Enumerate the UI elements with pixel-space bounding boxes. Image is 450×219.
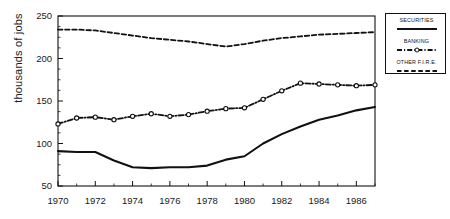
x-tick-label: 1984 bbox=[299, 195, 339, 206]
legend-label: BANKING bbox=[386, 38, 447, 45]
legend-label: OTHER F.I.R.E. bbox=[386, 59, 447, 66]
data-point-marker bbox=[168, 114, 172, 118]
x-tick-label: 1976 bbox=[150, 195, 190, 206]
data-point-marker bbox=[186, 113, 190, 117]
y-tick-label: 200 bbox=[26, 53, 52, 64]
data-point-marker bbox=[205, 109, 209, 113]
x-tick-label: 1974 bbox=[113, 195, 153, 206]
series-securities bbox=[58, 107, 375, 168]
series-other-f-i-r-e bbox=[58, 30, 375, 47]
x-tick-label: 1986 bbox=[336, 195, 376, 206]
legend-item-other-f-i-r-e: OTHER F.I.R.E. bbox=[386, 59, 447, 72]
x-tick-label: 1970 bbox=[38, 195, 78, 206]
data-point-marker bbox=[56, 122, 60, 126]
y-tick-label: 250 bbox=[26, 10, 52, 21]
x-tick-label: 1972 bbox=[75, 195, 115, 206]
chart-legend: SECURITIESBANKINGOTHER F.I.R.E. bbox=[385, 13, 446, 74]
y-tick-label: 150 bbox=[26, 95, 52, 106]
x-tick-label: 1982 bbox=[262, 195, 302, 206]
data-point-marker bbox=[130, 114, 134, 118]
x-tick-label: 1980 bbox=[224, 195, 264, 206]
data-point-marker bbox=[261, 97, 265, 101]
legend-label: SECURITIES bbox=[386, 17, 447, 24]
y-tick-label: 50 bbox=[26, 180, 52, 191]
data-point-marker bbox=[354, 84, 358, 88]
chart-figure: thousands of jobs 50100150200250 1970197… bbox=[0, 0, 450, 219]
plot-canvas bbox=[0, 0, 450, 219]
legend-item-securities: SECURITIES bbox=[386, 17, 447, 30]
data-point-marker bbox=[317, 82, 321, 86]
dash-dot-circle-line-swatch bbox=[395, 47, 439, 51]
series-line bbox=[58, 30, 375, 47]
plot-border bbox=[58, 16, 375, 186]
tick-marks bbox=[58, 16, 375, 186]
y-tick-label: 100 bbox=[26, 138, 52, 149]
data-point-marker bbox=[242, 106, 246, 110]
data-point-marker bbox=[75, 116, 79, 120]
series-layer bbox=[56, 30, 377, 169]
solid-thick-line-swatch bbox=[395, 26, 439, 30]
series-banking bbox=[56, 81, 377, 126]
axis-frame bbox=[58, 16, 375, 186]
x-tick-label: 1978 bbox=[187, 195, 227, 206]
y-axis-title: thousands of jobs bbox=[12, 0, 24, 128]
dashed-line-swatch bbox=[395, 68, 439, 72]
data-point-marker bbox=[298, 81, 302, 85]
data-point-marker bbox=[373, 83, 377, 87]
legend-item-banking: BANKING bbox=[386, 38, 447, 51]
data-point-marker bbox=[112, 118, 116, 122]
data-point-marker bbox=[224, 107, 228, 111]
data-point-marker bbox=[149, 112, 153, 116]
series-line bbox=[58, 107, 375, 168]
data-point-marker bbox=[280, 89, 284, 93]
data-point-marker bbox=[336, 83, 340, 87]
data-point-marker bbox=[93, 115, 97, 119]
